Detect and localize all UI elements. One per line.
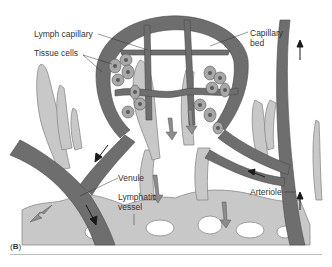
panel-caption: (B) <box>10 242 21 251</box>
label-capillary-bed-2: bed <box>250 38 264 48</box>
label-arteriole: Arteriole <box>250 187 282 197</box>
label-tissue-cells: Tissue cells <box>34 48 78 58</box>
lymphatic-system-diagram: Lymph capillary Tissue cells Capillary b… <box>0 0 332 267</box>
label-lymphatic-vessel: Lymphatic <box>118 192 157 202</box>
label-venule: Venule <box>118 173 144 183</box>
label-lymphatic-vessel-2: vessel <box>118 202 142 212</box>
divider-rule <box>10 254 322 255</box>
panel-label: B <box>13 242 19 251</box>
label-capillary-bed: Capillary <box>250 28 284 38</box>
diagram-canvas: Lymph capillary Tissue cells Capillary b… <box>0 0 332 267</box>
label-lymph-capillary: Lymph capillary <box>34 29 93 39</box>
